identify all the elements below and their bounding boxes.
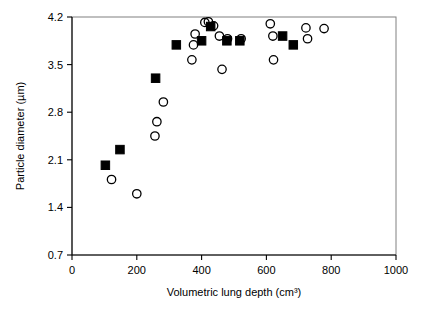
x-tick-label: 1000 <box>384 264 408 276</box>
chart-canvas: 0.71.42.12.83.54.2 02004006008001000 Vol… <box>0 0 425 310</box>
data-point-square-filled <box>289 41 298 50</box>
x-axis-title: Volumetric lung depth (cm³) <box>167 286 302 298</box>
x-axis-ticks: 02004006008001000 <box>69 255 408 276</box>
data-point-square-filled <box>278 32 287 41</box>
data-point-square-filled <box>101 161 110 170</box>
x-tick-label: 600 <box>257 264 275 276</box>
y-tick-label: 1.4 <box>48 201 63 213</box>
y-tick-label: 2.1 <box>48 154 63 166</box>
y-tick-label: 2.8 <box>48 106 63 118</box>
x-tick-label: 400 <box>192 264 210 276</box>
y-axis-ticks: 0.71.42.12.83.54.2 <box>48 11 72 261</box>
data-point-square-filled <box>151 74 160 83</box>
x-tick-label: 200 <box>128 264 146 276</box>
y-axis-title: Particle diameter (µm) <box>14 82 26 190</box>
plot-frame <box>72 17 396 255</box>
y-tick-label: 3.5 <box>48 59 63 71</box>
x-tick-label: 0 <box>69 264 75 276</box>
data-point-square-filled <box>116 145 125 154</box>
scatter-plot-figure: 0.71.42.12.83.54.2 02004006008001000 Vol… <box>0 0 425 310</box>
x-tick-label: 800 <box>322 264 340 276</box>
data-point-square-filled <box>172 41 181 50</box>
data-point-square-filled <box>197 37 206 46</box>
y-tick-label: 0.7 <box>48 249 63 261</box>
y-tick-label: 4.2 <box>48 11 63 23</box>
